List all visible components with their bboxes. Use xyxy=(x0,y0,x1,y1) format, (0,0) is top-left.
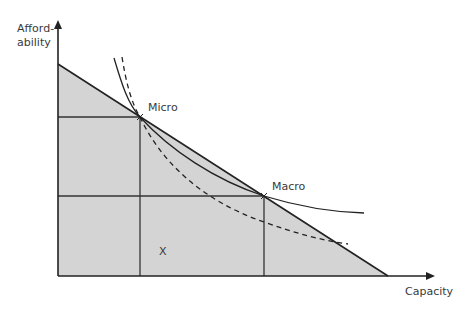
y-axis-arrow-icon xyxy=(54,20,62,29)
x-axis-label: Capacity xyxy=(405,285,454,298)
y-axis-label-line2: ability xyxy=(17,36,51,49)
y-axis-label-line1: Afford- xyxy=(17,22,54,35)
micro-label: Micro xyxy=(148,101,178,114)
macro-label: Macro xyxy=(272,180,306,193)
x-axis-arrow-icon xyxy=(426,272,435,280)
region-x-label: X xyxy=(159,245,167,258)
affordability-capacity-diagram: Afford- ability Capacity Micro Macro X xyxy=(0,0,462,309)
